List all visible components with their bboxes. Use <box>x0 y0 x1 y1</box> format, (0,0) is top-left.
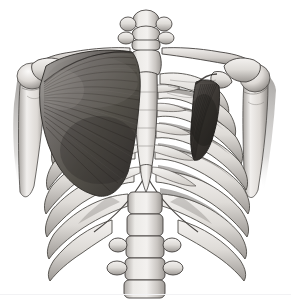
anatomy-figure: Anterior view of the human thorax Rib ca… <box>0 0 291 301</box>
thorax-illustration: Deltoid region (left) Left humerus Right… <box>0 0 291 301</box>
figure-baseline <box>0 294 291 295</box>
